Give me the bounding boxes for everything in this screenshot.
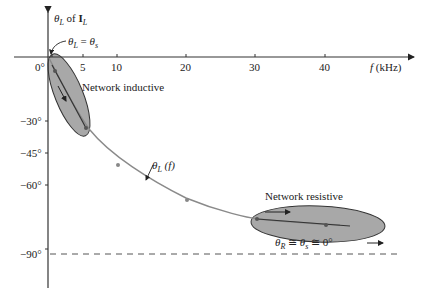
data-point (84, 126, 88, 130)
y-axis-title: θL of IL (54, 12, 88, 27)
x-tick-40: 40 (319, 61, 331, 73)
x-axis-label: f (kHz) (370, 61, 402, 74)
y-tick-minus-45: −45° (20, 147, 42, 159)
data-point (53, 69, 57, 73)
x-tick-5: 5 (80, 61, 86, 73)
data-point (324, 223, 328, 227)
x-tick-10: 10 (111, 61, 123, 73)
theta-eq-pointer-icon (51, 41, 66, 54)
y-tick-0: 0° (35, 61, 45, 73)
y-tick-minus-30: −30° (20, 115, 42, 127)
theta-eq-annotation: θL = θs (68, 35, 98, 50)
phase-plot: θL of IL θL = θs 0° 5 10 20 30 40 f (kHz… (0, 0, 423, 303)
curve-label: θL (f) (152, 159, 175, 174)
network-resistive-label: Network resistive (265, 190, 343, 202)
x-tick-30: 30 (249, 61, 261, 73)
data-point (185, 198, 189, 202)
data-point (255, 217, 259, 221)
y-tick-minus-90: −90° (20, 248, 42, 260)
network-inductive-label: Network inductive (82, 81, 164, 93)
data-point (116, 163, 120, 167)
x-tick-20: 20 (180, 61, 192, 73)
y-tick-minus-60: −60° (20, 179, 42, 191)
